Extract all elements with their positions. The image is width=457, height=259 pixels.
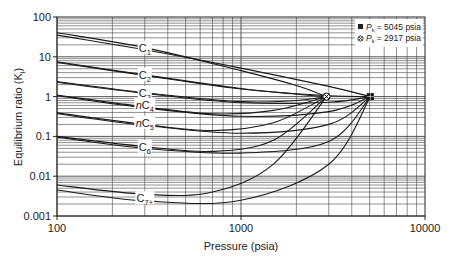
y-tick-label: 1	[45, 91, 51, 103]
svg-text:Pk = 5045 psia: Pk = 5045 psia	[366, 22, 421, 33]
curve-c2	[57, 62, 327, 97]
y-tick-label: 0.1	[36, 130, 51, 142]
x-tick-label: 10000	[410, 222, 441, 234]
square-marker-icon	[358, 24, 363, 29]
y-axis-label: Equilibrium ratio (Ki)	[12, 68, 27, 166]
y-axis-ticks: 0.0010.010.1110100	[23, 11, 57, 222]
x-axis-label: Pressure (psia)	[204, 240, 279, 252]
x-axis-ticks: 100100010000	[48, 216, 440, 234]
curve-c7plus	[57, 97, 327, 196]
legend: Pk = 5045 psia Pk = 2917 psia	[355, 19, 423, 47]
legend-entry-2917: Pk = 2917 psia	[358, 33, 421, 44]
x-tick-label: 1000	[229, 222, 253, 234]
curve-c2	[57, 63, 370, 97]
legend-entry-5045: Pk = 5045 psia	[358, 22, 421, 33]
y-tick-label: 0.01	[30, 170, 51, 182]
x-tick-label: 100	[48, 222, 66, 234]
equilibrium-ratio-chart: C1C2C3nC4nC5C6C7+ 0.0010.010.1110100 100…	[0, 0, 457, 259]
y-tick-label: 10	[39, 51, 51, 63]
curve-c6	[57, 97, 370, 154]
y-tick-label: 100	[33, 11, 51, 23]
svg-text:Pk = 2917 psia: Pk = 2917 psia	[366, 33, 421, 44]
y-tick-label: 0.001	[23, 210, 51, 222]
